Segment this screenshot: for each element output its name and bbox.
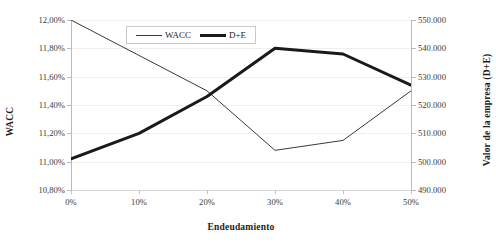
y-axis-right-tick-label: 540.000 bbox=[418, 43, 466, 53]
x-axis-tick-label: 40% bbox=[323, 197, 363, 207]
x-axis-title: Endeudamiento bbox=[71, 222, 411, 232]
tick-mark bbox=[411, 190, 412, 194]
series-line-d-e bbox=[71, 48, 411, 159]
y-axis-left-tick-label: 11,80% bbox=[19, 43, 65, 53]
x-axis-tick-label: 10% bbox=[119, 197, 159, 207]
tick-mark bbox=[275, 190, 276, 194]
x-axis-line bbox=[71, 190, 411, 191]
tick-mark bbox=[412, 20, 416, 21]
x-axis-tick-label: 0% bbox=[51, 197, 91, 207]
chart-legend: WACCD+E bbox=[126, 26, 256, 44]
y-axis-left-tick-label: 11,60% bbox=[19, 72, 65, 82]
tick-mark bbox=[412, 162, 416, 163]
x-axis-tick-label: 20% bbox=[187, 197, 227, 207]
y-axis-right-tick-label: 500.000 bbox=[418, 157, 466, 167]
y-axis-left-title: WACC bbox=[2, 0, 18, 243]
plot-area bbox=[71, 20, 411, 190]
y-axis-left-tick-label: 10,80% bbox=[19, 185, 65, 195]
legend-swatch-icon bbox=[200, 34, 226, 37]
y-axis-right-tick-label: 490.000 bbox=[418, 185, 466, 195]
tick-mark bbox=[412, 133, 416, 134]
chart-container: WACC Valor de la empresa (D+E) Endeudami… bbox=[0, 0, 496, 243]
y-axis-left-tick-label: 12,00% bbox=[19, 15, 65, 25]
legend-item-wacc[interactable]: WACC bbox=[136, 30, 191, 40]
tick-mark bbox=[139, 190, 140, 194]
series-lines bbox=[71, 20, 411, 190]
tick-mark bbox=[412, 190, 416, 191]
y-axis-right-tick-label: 530.000 bbox=[418, 72, 466, 82]
tick-mark bbox=[412, 48, 416, 49]
tick-mark bbox=[412, 105, 416, 106]
y-axis-right-tick-label: 520.000 bbox=[418, 100, 466, 110]
x-axis-tick-label: 50% bbox=[391, 197, 431, 207]
x-axis-tick-label: 30% bbox=[255, 197, 295, 207]
tick-mark bbox=[412, 77, 416, 78]
y-axis-right-tick-label: 510.000 bbox=[418, 128, 466, 138]
tick-mark bbox=[71, 190, 72, 194]
legend-label: WACC bbox=[165, 30, 191, 40]
tick-mark bbox=[207, 190, 208, 194]
legend-swatch-icon bbox=[136, 35, 162, 36]
y-axis-left-tick-label: 11,20% bbox=[19, 128, 65, 138]
tick-mark bbox=[343, 190, 344, 194]
legend-label: D+E bbox=[229, 30, 246, 40]
y-axis-right-title: Valor de la empresa (D+E) bbox=[479, 5, 495, 215]
y-axis-right-line bbox=[411, 20, 412, 190]
y-axis-left-tick-label: 11,40% bbox=[19, 100, 65, 110]
legend-item-d-e[interactable]: D+E bbox=[200, 30, 246, 40]
y-axis-left-tick-label: 11,00% bbox=[19, 157, 65, 167]
y-axis-right-tick-label: 550.000 bbox=[418, 15, 466, 25]
